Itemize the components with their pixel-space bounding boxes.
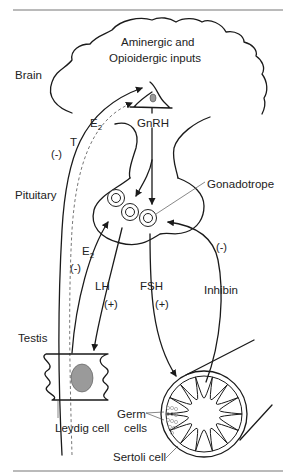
germ-cells-label-line2: cells [124, 422, 147, 434]
lh-label: LH [95, 280, 110, 292]
sertoli-cell-label: Sertoli cell [113, 451, 166, 463]
inhibin-negative-effect: (-) [216, 241, 227, 253]
pituitary-negative-effect: (-) [70, 262, 81, 274]
testis-label: Testis [18, 332, 48, 344]
hypothalamus-right-lobe [173, 117, 210, 178]
brain-label: Brain [15, 69, 42, 81]
estradiol-pituitary-label: E2 [82, 245, 95, 260]
testosterone-label: T [70, 136, 77, 148]
lh-positive-effect: (+) [104, 298, 118, 310]
brain-negative-effect: (-) [51, 148, 62, 160]
gonadotrope-cells [108, 190, 157, 227]
tubule-tangent-lower [240, 405, 272, 440]
leydig-cell-nucleus [71, 364, 93, 392]
estradiol-feedback-dashed-arrow [70, 103, 132, 455]
tubule-tangent-upper [186, 340, 254, 375]
germ-cells-label-line1: Germ [117, 408, 146, 420]
gonadotrope-label: Gonadotrope [207, 178, 274, 190]
leydig-cell-label: Leydig cell [55, 422, 109, 434]
brain-outline [50, 18, 266, 114]
fsh-positive-effect: (+) [155, 298, 169, 310]
fsh-label: FSH [140, 280, 163, 292]
gnrh-neuron-nucleus [150, 94, 156, 102]
inputs-label-line2: Opioidergic inputs [109, 52, 201, 64]
inhibin-label: Inhibin [204, 284, 238, 296]
germ-cells [166, 406, 177, 434]
inputs-label-line1: Aminergic and [121, 36, 195, 48]
hpg-axis-diagram: Aminergic and Opioidergic inputs Brain G… [0, 0, 291, 476]
gonadotrope-leader [156, 182, 205, 214]
pituitary-label: Pituitary [15, 189, 57, 201]
sertoli-leader [166, 446, 178, 458]
gnrh-label: GnRH [137, 117, 169, 129]
seminiferous-tubule [161, 340, 272, 457]
inhibin-arrow [168, 222, 221, 382]
hypothalamus-left-lobe [115, 123, 137, 178]
gnrh-arrow-curved [136, 160, 152, 196]
estradiol-brain-label: E2 [90, 117, 103, 132]
